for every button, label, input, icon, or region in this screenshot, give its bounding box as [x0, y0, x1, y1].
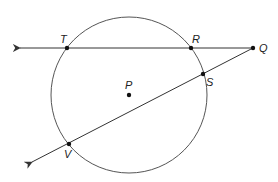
geometry-diagram: T R Q S V P [0, 0, 278, 182]
point-r [189, 46, 193, 50]
label-r: R [192, 33, 200, 45]
point-q [251, 46, 255, 50]
label-v: V [64, 148, 73, 160]
point-s [201, 72, 205, 76]
label-s: S [206, 76, 214, 88]
label-p: P [125, 79, 133, 91]
point-t [65, 46, 69, 50]
point-v [67, 142, 71, 146]
label-q: Q [259, 42, 268, 54]
diagram-canvas: T R Q S V P [0, 0, 278, 182]
point-p [127, 93, 131, 97]
line-qv [32, 48, 253, 162]
label-t: T [60, 33, 68, 45]
